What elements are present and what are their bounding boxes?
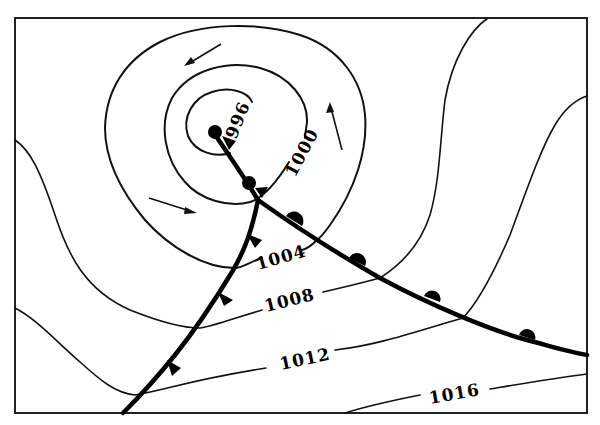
isobar-label-1008: 1008 [262, 284, 317, 316]
isobar-label-1000: 1000 [281, 125, 323, 180]
occluded-semicircle-2 [242, 176, 256, 190]
isobar-1004 [105, 26, 365, 268]
cold-front-triangle-3 [167, 360, 181, 376]
isobar-label-1016: 1016 [427, 379, 481, 408]
isobar-label-996: 996 [221, 98, 254, 141]
wind-arrow-down-left [184, 44, 221, 66]
occluded-semicircle-1 [208, 125, 222, 139]
isobar-1008-right [323, 18, 488, 292]
weather-map: 996 1000 1004 1008 1012 1016 [0, 0, 600, 425]
isobar-label-1012: 1012 [278, 344, 332, 374]
warm-front [258, 200, 587, 355]
isobar-label-1004: 1004 [254, 240, 309, 273]
isobar-1016-right [490, 374, 587, 389]
wind-arrow-right [149, 198, 197, 214]
wind-arrow-up [326, 102, 342, 150]
isobar-1012-right [335, 96, 587, 350]
cold-front [123, 200, 258, 413]
isobar-1016 [345, 395, 420, 413]
cold-front-triangle-2 [218, 292, 233, 306]
